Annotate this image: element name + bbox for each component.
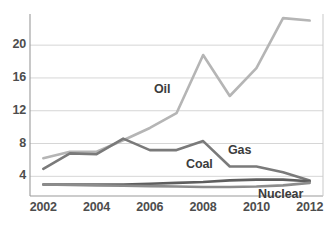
x-tick-label-2010: 2010 — [231, 200, 281, 214]
x-tick-label-2008: 2008 — [178, 200, 228, 214]
series-label-nuclear: Nuclear — [258, 187, 303, 201]
y-tick-label-12: 12 — [0, 103, 26, 117]
y-tick-label-4: 4 — [0, 168, 26, 182]
x-tick-label-2004: 2004 — [72, 200, 122, 214]
x-tick-label-2002: 2002 — [18, 200, 68, 214]
x-tick-label-2012: 2012 — [285, 200, 335, 214]
series-label-gas: Gas — [228, 143, 251, 157]
series-line-gas — [43, 139, 309, 181]
series-label-oil: Oil — [154, 82, 170, 96]
series-line-coal — [43, 180, 309, 185]
line-chart: 48121620 200220042006200820102012 OilGas… — [0, 0, 336, 228]
y-tick-label-20: 20 — [0, 37, 26, 51]
data-series-group — [43, 18, 309, 187]
y-tick-label-8: 8 — [0, 136, 26, 150]
y-tick-label-16: 16 — [0, 70, 26, 84]
series-line-oil — [43, 18, 309, 158]
x-tick-label-2006: 2006 — [125, 200, 175, 214]
series-label-coal: Coal — [186, 157, 213, 171]
chart-axes — [30, 14, 323, 196]
